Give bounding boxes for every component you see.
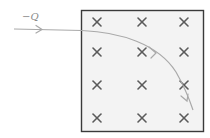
magnetic-field-region [82, 11, 204, 132]
magnetic-field-diagram: −Q [0, 0, 210, 138]
charge-label: −Q [22, 12, 39, 22]
